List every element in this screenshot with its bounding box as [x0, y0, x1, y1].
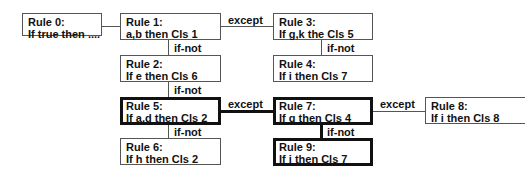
edge-r7-r9-ifnot: [320, 125, 323, 138]
edge-r2-r5-ifnot: [168, 82, 169, 97]
rule-8-title: Rule 8:: [431, 100, 525, 112]
rule-5-title: Rule 5:: [126, 100, 218, 112]
rule-6-node: Rule 6: If h then Cls 2: [120, 138, 221, 165]
rule-8-node: Rule 8: If i then Cls 8: [425, 97, 525, 124]
edge-r7-r8-except: [373, 111, 425, 112]
rule-0-title: Rule 0:: [28, 16, 101, 28]
rule-3-title: Rule 3:: [279, 16, 372, 28]
rule-1-body: a,b then Cls 1: [126, 28, 220, 40]
edge-r1-r3-except: [221, 26, 273, 27]
edge-label-r7-r8: except: [380, 98, 415, 110]
rule-3-node: Rule 3: If g,k the Cls 5: [273, 13, 373, 40]
rule-0-body: If true then ....: [28, 28, 101, 40]
edge-label-r1-r3: except: [228, 14, 263, 26]
rule-3-body: If g,k the Cls 5: [279, 28, 372, 40]
rule-4-node: Rule 4: If i then Cls 7: [273, 55, 373, 82]
rule-9-title: Rule 9:: [279, 141, 370, 153]
rule-6-title: Rule 6:: [126, 141, 220, 153]
rule-9-node: Rule 9: If i then Cls 7: [273, 138, 373, 166]
rule-5-body: If a,d then Cls 2: [126, 112, 218, 124]
rule-5-node: Rule 5: If a,d then Cls 2: [120, 97, 221, 125]
edge-r5-r6-ifnot: [168, 125, 169, 138]
rule-6-body: If h then Cls 2: [126, 153, 220, 165]
rule-4-body: If i then Cls 7: [279, 70, 372, 82]
rule-7-title: Rule 7:: [279, 100, 370, 112]
edge-r5-r7-except: [221, 110, 273, 113]
edge-label-r3-r4: if-not: [327, 42, 354, 54]
edge-r0-r1: [102, 26, 120, 27]
rule-2-title: Rule 2:: [126, 58, 220, 70]
edge-r3-r4-ifnot: [321, 40, 322, 55]
rule-0-node: Rule 0: If true then ....: [22, 13, 102, 36]
edge-label-r5-r6: if-not: [174, 126, 201, 138]
edge-r1-r2-ifnot: [168, 40, 169, 55]
edge-label-r2-r5: if-not: [174, 84, 201, 96]
rule-8-body: If i then Cls 8: [431, 112, 525, 124]
edge-label-r7-r9: if-not: [327, 126, 354, 138]
rule-9-body: If i then Cls 7: [279, 153, 370, 165]
rule-1-title: Rule 1:: [126, 16, 220, 28]
rule-7-node: Rule 7: If g then Cls 4: [273, 97, 373, 125]
edge-label-r1-r2: if-not: [174, 42, 201, 54]
rule-7-body: If g then Cls 4: [279, 112, 370, 124]
rule-1-node: Rule 1: a,b then Cls 1: [120, 13, 221, 40]
edge-label-r5-r7: except: [228, 98, 263, 110]
rule-4-title: Rule 4:: [279, 58, 372, 70]
rule-2-body: If e then Cls 6: [126, 70, 220, 82]
rule-2-node: Rule 2: If e then Cls 6: [120, 55, 221, 82]
